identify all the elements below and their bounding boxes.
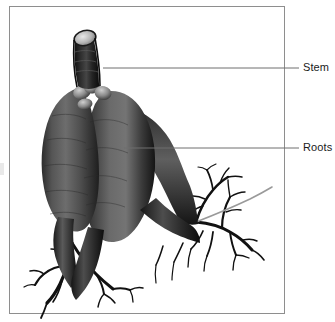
margin-artifact xyxy=(0,163,4,175)
plant-anatomy-figure xyxy=(0,0,335,322)
label-stem: Stem xyxy=(303,61,329,73)
label-roots: Roots xyxy=(303,141,332,153)
stem-stub xyxy=(75,40,99,89)
